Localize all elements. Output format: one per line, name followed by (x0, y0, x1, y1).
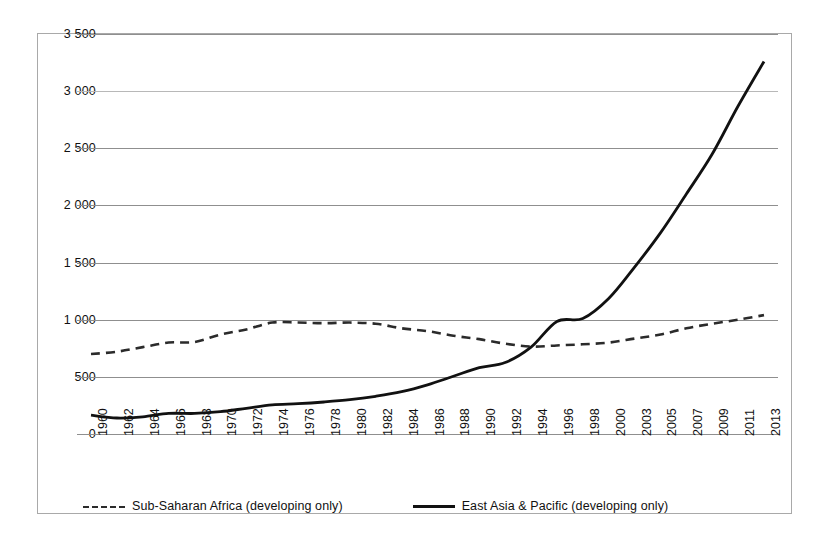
chart-page: 05001 0001 5002 0002 5003 0003 500 19601… (0, 0, 826, 537)
legend-item-sub-saharan-africa: Sub-Saharan Africa (developing only) (83, 499, 343, 513)
x-axis-tick-label: 2009 (717, 408, 731, 436)
legend-label: East Asia & Pacific (developing only) (462, 499, 669, 513)
x-axis-tick-label: 1968 (200, 408, 214, 436)
x-axis-tick-label: 1998 (588, 408, 602, 436)
dashed-line-icon (83, 506, 125, 508)
x-axis: 1960196219641966196819701972197419761978… (77, 434, 778, 496)
x-axis-tick-label: 1970 (225, 408, 239, 436)
x-axis-tick-label: 2005 (665, 408, 679, 436)
x-axis-tick-label: 1986 (433, 408, 447, 436)
x-axis-tick-label: 2011 (743, 409, 757, 436)
series-line (91, 61, 764, 418)
legend-item-east-asia-pacific: East Asia & Pacific (developing only) (413, 499, 669, 513)
x-axis-tick-label: 1978 (329, 408, 343, 436)
x-axis-tick-label: 2007 (691, 408, 705, 436)
x-axis-tick-label: 1964 (148, 408, 162, 436)
x-axis-tick-label: 2000 (614, 408, 628, 436)
x-axis-tick-label: 1996 (562, 408, 576, 436)
x-axis-tick-label: 1960 (96, 408, 110, 436)
x-axis-tick-label: 1962 (122, 408, 136, 436)
x-axis-tick-label: 1972 (251, 408, 265, 436)
x-axis-tick-label: 2013 (769, 408, 783, 436)
series-line (91, 315, 764, 354)
x-axis-tick-label: 2003 (640, 408, 654, 436)
x-axis-tick-label: 1992 (510, 408, 524, 436)
x-axis-tick-label: 1988 (458, 408, 472, 436)
chart-frame: 05001 0001 5002 0002 5003 0003 500 19601… (37, 33, 792, 514)
series-lines (77, 34, 778, 434)
x-axis-tick-label: 1984 (407, 408, 421, 436)
x-axis-tick-label: 1976 (303, 408, 317, 436)
solid-line-icon (413, 505, 455, 508)
plot-area (77, 34, 778, 434)
chart-legend: Sub-Saharan Africa (developing only) Eas… (38, 496, 793, 515)
plot-wrapper: 05001 0001 5002 0002 5003 0003 500 (38, 34, 793, 434)
x-axis-tick-label: 1966 (174, 408, 188, 436)
x-axis-tick-label: 1982 (381, 408, 395, 436)
x-axis-tick-label: 1974 (277, 408, 291, 436)
x-axis-tick-label: 1990 (484, 408, 498, 436)
x-axis-tick-label: 1980 (355, 408, 369, 436)
legend-label: Sub-Saharan Africa (developing only) (132, 499, 343, 513)
x-axis-tick-label: 1994 (536, 408, 550, 436)
